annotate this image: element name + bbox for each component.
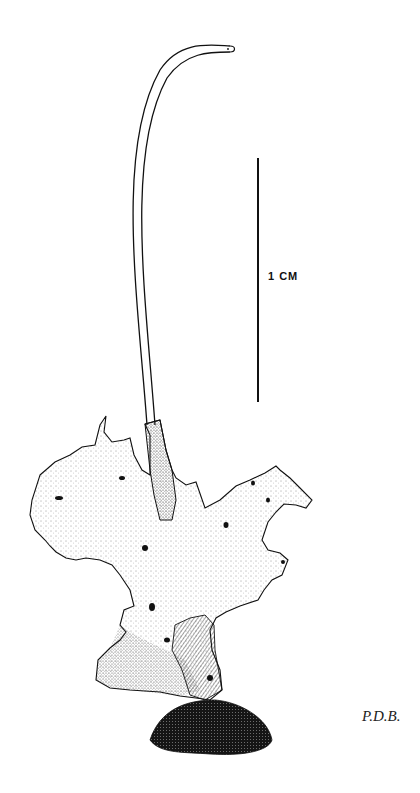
artist-signature: P.D.B. [362,708,400,725]
thallus [30,416,312,700]
scale-bar-label: 1 CM [268,270,298,282]
specimen-illustration [0,0,420,793]
holdfast [150,700,272,754]
stalk [133,45,234,425]
